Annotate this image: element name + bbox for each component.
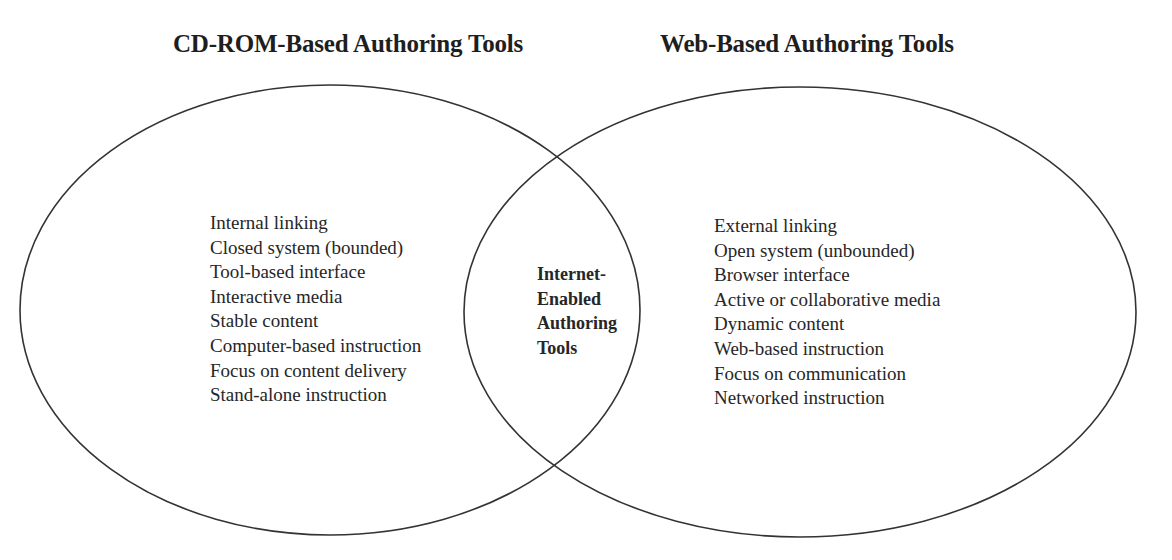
intersection-label-line: Internet- — [537, 262, 617, 287]
cdrom-feature-item: Stand-alone instruction — [210, 383, 421, 408]
web-feature-item: Dynamic content — [714, 312, 940, 337]
cdrom-feature-item: Computer-based instruction — [210, 334, 421, 359]
cdrom-feature-item: Tool-based interface — [210, 260, 421, 285]
web-feature-item: Web-based instruction — [714, 337, 940, 362]
cdrom-feature-item: Internal linking — [210, 211, 421, 236]
web-feature-item: External linking — [714, 214, 940, 239]
cdrom-feature-item: Stable content — [210, 309, 421, 334]
web-feature-list: External linking Open system (unbounded)… — [714, 214, 940, 411]
cdrom-feature-item: Interactive media — [210, 285, 421, 310]
intersection-label-line: Enabled — [537, 287, 617, 312]
web-set-title: Web-Based Authoring Tools — [660, 30, 954, 58]
web-feature-item: Open system (unbounded) — [714, 239, 940, 264]
web-feature-item: Networked instruction — [714, 386, 940, 411]
web-feature-item: Active or collaborative media — [714, 288, 940, 313]
intersection-label-line: Tools — [537, 336, 617, 361]
cdrom-feature-item: Closed system (bounded) — [210, 236, 421, 261]
web-feature-item: Focus on communication — [714, 362, 940, 387]
cdrom-set-title: CD-ROM-Based Authoring Tools — [173, 30, 523, 58]
cdrom-feature-list: Internal linking Closed system (bounded)… — [210, 211, 421, 408]
web-feature-item: Browser interface — [714, 263, 940, 288]
cdrom-feature-item: Focus on content delivery — [210, 359, 421, 384]
intersection-label-line: Authoring — [537, 311, 617, 336]
intersection-label: Internet- Enabled Authoring Tools — [537, 262, 617, 360]
